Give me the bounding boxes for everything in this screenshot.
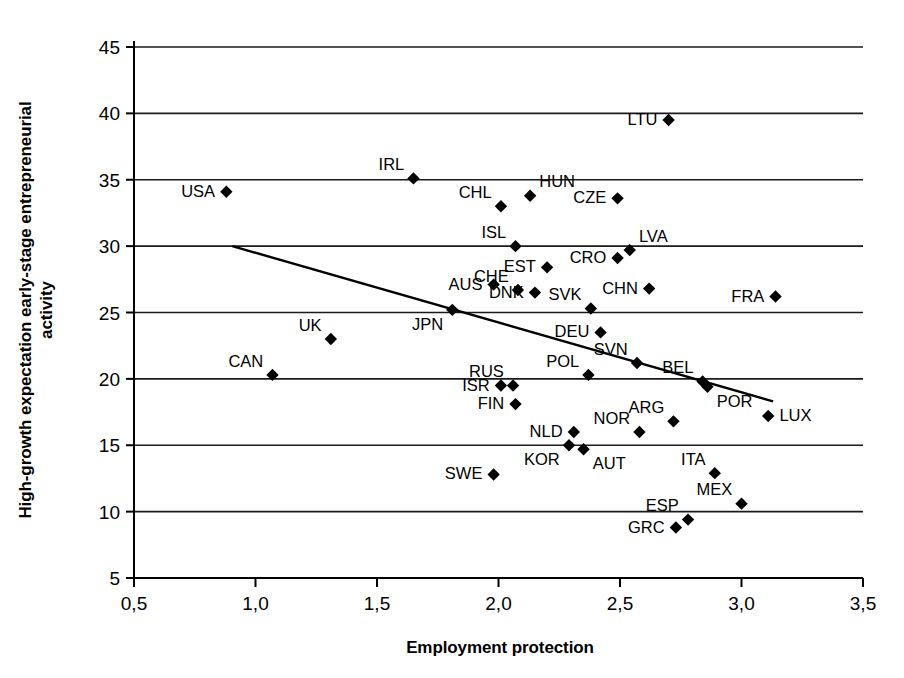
diamond-marker (495, 200, 507, 212)
data-point-label: RUS (469, 362, 504, 380)
x-tick-label: 0,5 (121, 593, 147, 614)
diamond-marker (407, 172, 419, 184)
diamond-marker (709, 467, 721, 479)
diamond-marker (769, 290, 781, 302)
data-point-jpn: JPN (412, 304, 459, 333)
data-point-label: EST (504, 257, 536, 275)
data-point-chl: CHL (459, 183, 507, 212)
data-point-pol: POL (546, 352, 594, 381)
data-point-deu: DEU (555, 322, 607, 340)
diamond-marker (670, 521, 682, 533)
diamond-marker (643, 282, 655, 294)
data-point-label: ESP (646, 496, 679, 514)
data-point-label: NOR (594, 409, 631, 427)
y-tick-label: 30 (99, 236, 120, 257)
x-axis-ticks: 0,51,01,52,02,53,03,5 (121, 578, 876, 614)
data-point-aut: AUT (577, 443, 625, 472)
data-point-label: CAN (228, 352, 263, 370)
data-point-label: ISL (482, 223, 507, 241)
data-point-label: ARG (628, 398, 664, 416)
data-point-label: HUN (539, 172, 575, 190)
data-point-bel: BEL (662, 358, 709, 387)
data-point-ita: ITA (681, 450, 721, 479)
diamond-marker (509, 240, 521, 252)
y-tick-label: 35 (99, 170, 120, 191)
data-point-label: KOR (524, 450, 560, 468)
diamond-marker (735, 497, 747, 509)
data-point-hun: HUN (524, 172, 575, 201)
data-point-label: AUT (593, 454, 626, 472)
data-point-label: GRC (628, 518, 665, 536)
data-point-fra: FRA (731, 287, 781, 305)
data-point-label: CRO (570, 248, 607, 266)
diamond-marker (541, 261, 553, 273)
data-point-label: UK (299, 316, 322, 334)
data-point-lva: LVA (624, 227, 668, 256)
data-point-isl: ISL (482, 223, 522, 252)
data-point-svk: SVK (549, 285, 597, 314)
diamond-marker (563, 439, 575, 451)
data-point-svn: SVN (594, 340, 643, 369)
data-point-label: CHN (602, 279, 638, 297)
diamond-marker (507, 379, 519, 391)
data-point-fin: FIN (478, 394, 522, 412)
diamond-marker (631, 357, 643, 369)
data-point-kor: KOR (524, 439, 575, 468)
data-point-swe: SWE (445, 464, 500, 482)
y-tick-label: 5 (109, 568, 120, 589)
data-point-label: DEU (555, 322, 590, 340)
y-tick-label: 10 (99, 502, 120, 523)
data-point-grc: GRC (628, 518, 682, 536)
x-tick-label: 2,0 (485, 593, 511, 614)
data-point-por: POR (701, 381, 752, 410)
data-point-usa: USA (181, 182, 232, 200)
diamond-marker (762, 410, 774, 422)
diamond-marker (667, 415, 679, 427)
data-point-uk: UK (299, 316, 337, 345)
data-point-cro: CRO (570, 248, 624, 266)
axis-lines (134, 41, 863, 578)
data-point-label: POL (546, 352, 579, 370)
data-point-label: FIN (478, 394, 505, 412)
plot-area: 51015202530354045 0,51,01,52,02,53,03,5 … (0, 0, 904, 678)
data-point-label: SVN (594, 340, 628, 358)
diamond-marker (220, 185, 232, 197)
diamond-marker (611, 192, 623, 204)
data-point-cze: CZE (573, 188, 623, 206)
data-point-label: DNK (489, 283, 524, 301)
y-tick-label: 40 (99, 103, 120, 124)
diamond-marker (487, 468, 499, 480)
diamond-marker (446, 304, 458, 316)
data-point-label: ITA (681, 450, 705, 468)
y-tick-label: 25 (99, 303, 120, 324)
diamond-marker (611, 252, 623, 264)
data-point-label: FRA (731, 287, 764, 305)
diamond-marker (495, 379, 507, 391)
data-point-label: JPN (412, 315, 443, 333)
data-point-label: MEX (697, 480, 733, 498)
scatter-chart-figure: High-growth expectation early-stage entr… (0, 0, 904, 678)
data-point-lux: LUX (762, 406, 812, 424)
diamond-marker (325, 333, 337, 345)
diamond-marker (568, 426, 580, 438)
data-point-chn: CHN (602, 279, 655, 297)
x-axis-title: Employment protection (120, 638, 880, 658)
data-point-dnk: DNK (489, 283, 541, 301)
x-tick-label: 3,5 (850, 593, 876, 614)
diamond-marker (509, 398, 521, 410)
x-tick-label: 1,5 (364, 593, 390, 614)
y-tick-label: 20 (99, 369, 120, 390)
data-point-arg: ARG (628, 398, 679, 427)
data-point-label: LVA (639, 227, 668, 245)
diamond-marker (594, 326, 606, 338)
data-point-label: IRL (379, 155, 405, 173)
y-tick-label: 45 (99, 37, 120, 58)
x-tick-label: 1,0 (242, 593, 268, 614)
diamond-marker (662, 114, 674, 126)
data-point-label: CHL (459, 183, 492, 201)
data-point-label: LTU (627, 110, 657, 128)
y-tick-label: 15 (99, 435, 120, 456)
y-axis-ticks: 51015202530354045 (99, 37, 134, 589)
x-tick-label: 2,5 (607, 593, 633, 614)
data-point-label: NLD (530, 422, 563, 440)
